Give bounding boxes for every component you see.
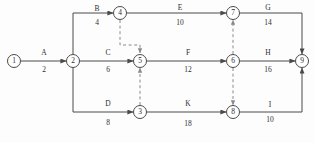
activity-K-name: K [185, 100, 190, 108]
activity-D-duration: 8 [106, 119, 110, 127]
activity-A-duration: 2 [42, 66, 46, 74]
activity-I-duration: 10 [266, 116, 274, 124]
edge-D [73, 68, 133, 112]
activity-G-name: G [265, 4, 270, 12]
node-7[interactable]: 7 [227, 7, 240, 20]
node-6-label: 6 [231, 56, 235, 65]
node-2-label: 2 [71, 56, 75, 65]
activity-B-duration: 4 [95, 19, 99, 27]
activity-C-name: C [105, 49, 110, 57]
node-3-label: 3 [138, 107, 142, 116]
activity-E-name: E [178, 4, 183, 12]
node-5[interactable]: 5 [134, 55, 147, 68]
activity-H-duration: 16 [264, 66, 272, 74]
node-5-label: 5 [138, 56, 142, 65]
activity-C-duration: 6 [106, 66, 110, 74]
dummy-edge-4-5 [120, 20, 140, 53]
node-4[interactable]: 4 [114, 7, 127, 20]
node-9[interactable]: 9 [296, 55, 309, 68]
network-diagram: 1 2 4 5 3 7 6 8 [0, 0, 314, 143]
activity-B-name: B [94, 5, 99, 13]
node-8[interactable]: 8 [227, 106, 240, 119]
activity-A-name: A [41, 49, 46, 57]
node-9-label: 9 [300, 56, 304, 65]
activity-F-duration: 12 [184, 66, 192, 74]
activity-I-name: I [269, 101, 272, 109]
activity-D-name: D [105, 100, 110, 108]
node-2[interactable]: 2 [67, 55, 80, 68]
node-6[interactable]: 6 [227, 55, 240, 68]
activity-E-duration: 10 [176, 19, 184, 27]
node-7-label: 7 [231, 8, 235, 17]
activity-K-duration: 18 [184, 120, 192, 128]
activity-F-name: F [186, 49, 190, 57]
node-4-label: 4 [118, 8, 122, 17]
activity-G-duration: 14 [264, 19, 272, 27]
node-1-label: 1 [12, 56, 16, 65]
node-3[interactable]: 3 [134, 106, 147, 119]
activity-H-name: H [265, 49, 270, 57]
node-8-label: 8 [231, 107, 235, 116]
node-1[interactable]: 1 [8, 55, 21, 68]
